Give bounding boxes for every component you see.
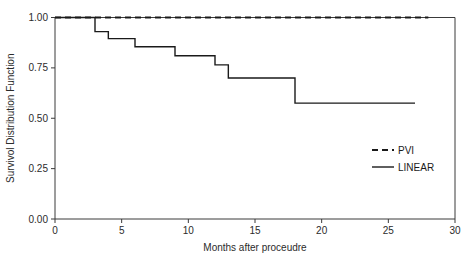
series-line-linear [55,18,415,104]
y-tick-label: 1.00 [29,12,49,23]
x-axis-title: Months after proceudre [203,242,307,253]
kaplan-meier-plot: 0510152025300.000.250.500.751.00Months a… [0,0,471,268]
y-tick-label: 0.00 [29,214,49,225]
plot-axes [55,18,455,220]
x-tick-label: 30 [449,225,461,236]
y-tick-label: 0.75 [29,62,49,73]
x-tick-label: 20 [316,225,328,236]
legend-label-pvi: PVI [398,145,414,156]
x-tick-label: 5 [119,225,125,236]
x-tick-label: 15 [249,225,261,236]
y-tick-label: 0.50 [29,113,49,124]
plot-frame [55,18,455,220]
y-axis-title: Survivol Distribution Function [5,54,16,184]
survival-curve-figure: 0510152025300.000.250.500.751.00Months a… [0,0,471,268]
legend-label-linear: LINEAR [398,162,434,173]
y-tick-label: 0.25 [29,163,49,174]
x-tick-label: 10 [183,225,195,236]
x-tick-label: 0 [52,225,58,236]
x-tick-label: 25 [383,225,395,236]
